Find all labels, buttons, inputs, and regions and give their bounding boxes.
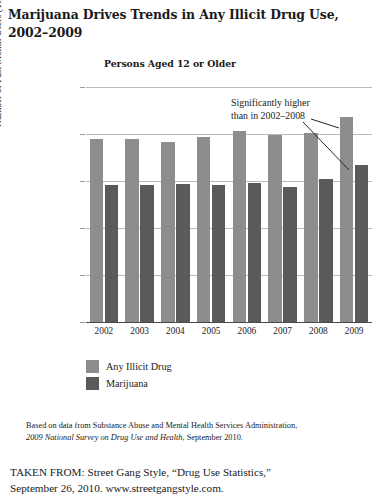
legend-label-marijuana: Marijuana [106, 378, 148, 389]
attribution: TAKEN FROM: Street Gang Style, “Drug Use… [10, 464, 382, 496]
y-tick-mark-15000 [80, 181, 85, 182]
legend-swatch-any-illicit-drug [86, 360, 99, 373]
bar-2002-marijuana [105, 185, 119, 322]
bar-2009-any-illicit-drug [340, 117, 354, 322]
y-tick-mark-25000 [80, 87, 85, 88]
source-note: Based on data from Substance Abuse and M… [26, 420, 376, 444]
x-tick-label-2002: 2002 [86, 326, 122, 336]
source-note-date: , September 2010. [182, 433, 242, 442]
y-tick-mark-20000 [80, 134, 85, 135]
legend-item-any-illicit-drug: Any Illicit Drug [86, 360, 172, 373]
bars-layer [86, 87, 372, 322]
attribution-line-1: TAKEN FROM: Street Gang Style, “Drug Use… [10, 464, 382, 480]
chart-figure: Persons Aged 12 or Older Number of Past … [0, 0, 389, 420]
attribution-line-2: September 26, 2010. www.streetgangstyle.… [10, 480, 382, 496]
x-tick-label-2003: 2003 [122, 326, 158, 336]
bar-2005-marijuana [212, 185, 226, 322]
bar-2005-any-illicit-drug [197, 137, 211, 322]
legend-swatch-marijuana [86, 377, 99, 390]
y-axis-title: Number of Past Month Users (Thousands) [0, 0, 3, 127]
bar-2006-marijuana [248, 183, 262, 322]
bar-2004-any-illicit-drug [161, 142, 175, 322]
bar-2003-marijuana [140, 185, 154, 322]
plot-area: 05,00010,00015,00020,00025,000 200220032… [86, 87, 372, 322]
bar-2007-marijuana [283, 187, 297, 322]
bar-2002-any-illicit-drug [90, 139, 104, 322]
bar-2003-any-illicit-drug [125, 139, 139, 322]
bar-group-2002 [90, 87, 119, 322]
legend-label-any-illicit-drug: Any Illicit Drug [106, 361, 172, 372]
x-tick-label-2008: 2008 [301, 326, 337, 336]
bar-2009-marijuana [355, 165, 369, 322]
x-tick-label-2005: 2005 [193, 326, 229, 336]
bar-group-2003 [125, 87, 154, 322]
bar-2004-marijuana [176, 184, 190, 322]
bar-2008-any-illicit-drug [304, 133, 318, 322]
y-tick-mark-5000 [80, 275, 85, 276]
x-tick-label-2004: 2004 [158, 326, 194, 336]
bar-group-2005 [197, 87, 226, 322]
x-tick-label-2007: 2007 [265, 326, 301, 336]
y-tick-mark-0 [80, 322, 85, 323]
source-note-publication: 2009 National Survey on Drug Use and Hea… [26, 433, 182, 442]
significance-annotation: Significantly higher than in 2002–2008 [231, 96, 310, 122]
y-tick-mark-10000 [80, 228, 85, 229]
chart-legend: Any Illicit Drug Marijuana [86, 360, 172, 394]
chart-subtitle: Persons Aged 12 or Older [104, 58, 236, 69]
legend-item-marijuana: Marijuana [86, 377, 172, 390]
bar-group-2004 [161, 87, 190, 322]
bar-2008-marijuana [319, 179, 333, 322]
x-tick-label-2006: 2006 [229, 326, 265, 336]
bar-2007-any-illicit-drug [268, 135, 282, 322]
source-note-line1: Based on data from Substance Abuse and M… [26, 421, 297, 430]
bar-2006-any-illicit-drug [233, 131, 247, 322]
gridline-0 [86, 322, 372, 323]
x-tick-label-2009: 2009 [336, 326, 372, 336]
bar-group-2009 [340, 87, 369, 322]
